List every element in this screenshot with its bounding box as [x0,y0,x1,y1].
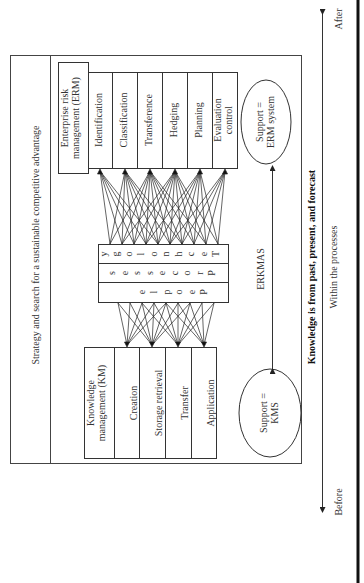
within-processes-label: Within the processes [328,212,342,322]
km-support-line1: Support = [258,378,269,448]
km-header-line1: Knowledge [85,348,96,459]
erm-support-label: Support = ERM system [254,87,278,157]
center-letter: s [144,267,156,279]
center-letter: s [131,267,143,279]
center-letter: o [173,286,185,298]
erkmas-diagram: Strategy and search for a sustainable co… [0,0,364,583]
km-step-storage-retrieval: Storage retrieval [153,348,167,459]
fan-lines-erm [98,169,228,244]
center-letter: s [106,267,118,279]
erm-header: Enterprise risk management (ERM) [59,63,89,174]
center-letter: e [136,286,148,298]
erm-step-hedging: Hedging [168,72,182,168]
center-letter: o [148,248,160,260]
center-letter: y [98,248,110,260]
center-letter: h [173,248,185,260]
erm-step-identification: Identification [93,72,107,168]
erm-step-transference: Transference [143,72,157,168]
erm-header-line2: management (ERM) [70,63,81,174]
center-letter: c [185,248,197,260]
center-letter: n [160,248,172,260]
erm-step-planning: Planning [193,72,207,168]
km-step-transfer: Transfer [179,348,193,459]
center-letter: P [206,267,218,279]
erm-step-evaluation-control: Evaluation control [212,72,236,168]
center-letter: r [194,267,206,279]
center-letter: l [148,286,160,298]
eval-line1: Evaluation [212,72,223,168]
erm-support-line2: ERM system [265,87,276,157]
after-label: After [333,0,347,41]
center-letter: e [119,267,131,279]
erm-header-line1: Enterprise risk [59,63,70,174]
km-header-line2: management (KM) [96,348,107,459]
center-letter: g [110,248,122,260]
before-label: Before [333,480,347,524]
center-letter: e [198,248,210,260]
center-letter: e [156,267,168,279]
center-letter: l [135,248,147,260]
center-letter: P [198,286,210,298]
center-letter: o [123,248,135,260]
erm-step-classification: Classification [118,72,132,168]
km-step-application: Application [205,348,219,459]
center-letter: c [169,267,181,279]
strategy-label: Strategy and search for a sustainable co… [30,35,44,455]
erm-support-line1: Support = [254,87,265,157]
knowledge-label: Knowledge is from past, present, and for… [306,122,320,412]
km-header: Knowledge management (KM) [85,348,115,459]
km-support-line2: KMS [269,378,280,448]
center-letter: o [181,267,193,279]
fan-lines-km [118,303,214,347]
erkmas-label: ERKMAS [255,229,269,309]
center-letter: T [210,248,222,260]
eval-line2: control [223,72,234,168]
km-support-label: Support = KMS [258,378,282,448]
km-step-creation: Creation [128,348,142,459]
center-letter: e [186,286,198,298]
center-letter: p [161,286,173,298]
